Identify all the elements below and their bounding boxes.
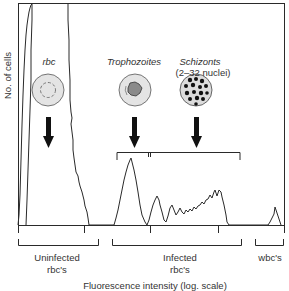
trophozoite-cell-icon [119, 74, 151, 106]
down-arrow-icons [43, 117, 202, 148]
y-axis-label: No. of cells [2, 51, 13, 101]
wbc-bracket [256, 239, 284, 246]
rbc-label: rbc [38, 56, 60, 67]
schizonts-nuclei-label: (2–32 nuclei) [168, 67, 238, 78]
infected-bracket [113, 239, 242, 246]
x-axis-ticks [19, 225, 285, 233]
rbc-cell-icon [32, 74, 64, 106]
trophozoite-arrow-icon [129, 117, 140, 148]
uninfected-label-line1: Uninfected [24, 252, 90, 263]
uninfected-bracket [19, 239, 99, 246]
schizonts-label: Schizonts [172, 56, 228, 67]
wbc-label: wbc's [253, 252, 287, 263]
infected-label-line2: rbc's [150, 264, 210, 275]
x-axis-label: Fluorescence intensity (log. scale) [65, 280, 245, 291]
uninfected-label-line2: rbc's [24, 264, 90, 275]
trophozoites-label: Trophozoites [103, 56, 165, 67]
infected-label-line1: Infected [150, 252, 210, 263]
rbc-peak-left-wall [26, 4, 32, 225]
plot-frame [18, 3, 285, 226]
histogram-trace [18, 4, 281, 225]
schizont-cell-icon [180, 74, 212, 106]
rbc-arrow-icon [43, 117, 54, 148]
schizont-arrow-icon [191, 117, 202, 148]
infected-upper-bracket [117, 152, 240, 160]
group-brackets [19, 239, 284, 246]
